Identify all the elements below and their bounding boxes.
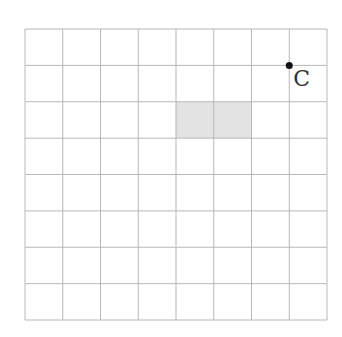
- grid-lines: [25, 29, 327, 320]
- point-c-label: C: [293, 68, 310, 90]
- grid-canvas: [0, 0, 342, 337]
- point-c-marker: [286, 62, 293, 69]
- points: [286, 62, 293, 69]
